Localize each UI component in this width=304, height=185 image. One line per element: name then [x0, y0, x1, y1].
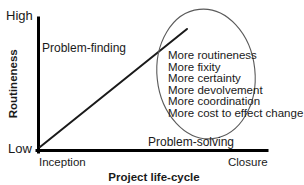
x-axis-title: Project life-cycle [74, 172, 234, 184]
y-axis-low-label: Low [8, 142, 32, 155]
region-label-problem-solving: Problem-solving [148, 136, 234, 148]
callout-list: More routineness More fixity More certai… [168, 50, 303, 120]
x-axis-end-label: Closure [228, 157, 268, 169]
callout-item: More routineness [168, 50, 303, 62]
y-axis-high-label: High [6, 9, 33, 22]
x-axis-start-label: Inception [39, 157, 86, 169]
y-axis-title: Routineness [8, 42, 20, 126]
region-label-problem-finding: Problem-finding [42, 42, 126, 54]
callout-item: More cost to effect change [168, 108, 303, 120]
routineness-project-lifecycle-chart: High Low Inception Closure Routineness P… [0, 0, 304, 185]
